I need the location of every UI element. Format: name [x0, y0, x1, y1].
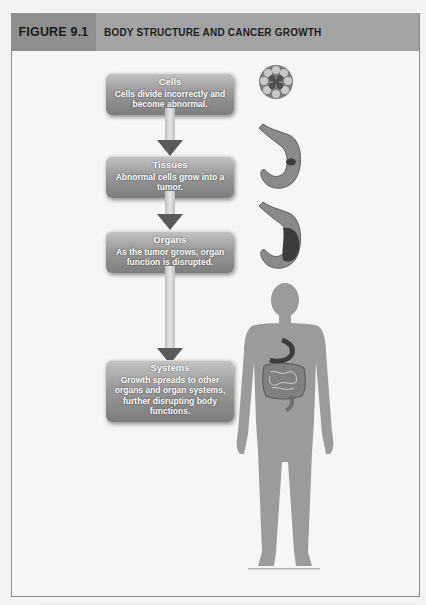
arrow-down-icon: [157, 214, 183, 230]
step-systems-box: Systems Growth spreads to other organs a…: [106, 360, 234, 422]
cell-cluster-icon: [258, 64, 294, 100]
step-title: Systems: [110, 363, 230, 374]
step-title: Organs: [110, 235, 230, 246]
figure-title: BODY STRUCTURE AND CANCER GROWTH: [96, 27, 322, 38]
arrow-shaft: [165, 266, 175, 354]
figure-label: FIGURE 9.1: [11, 13, 96, 51]
step-text: Cells divide incorrectly and become abno…: [110, 89, 230, 110]
figure-header: FIGURE 9.1 BODY STRUCTURE AND CANCER GRO…: [11, 13, 419, 51]
stomach-large-tumor-icon: [255, 200, 305, 276]
step-title: Tissues: [110, 160, 230, 171]
human-body-icon: [230, 282, 340, 582]
step-text: Growth spreads to other organs and organ…: [110, 375, 230, 417]
stomach-small-tumor-icon: [255, 122, 305, 194]
step-text: Abnormal cells grow into a tumor.: [110, 172, 230, 193]
step-text: As the tumor grows, organ function is di…: [110, 247, 230, 268]
arrow-down-icon: [157, 140, 183, 156]
step-title: Cells: [110, 77, 230, 88]
